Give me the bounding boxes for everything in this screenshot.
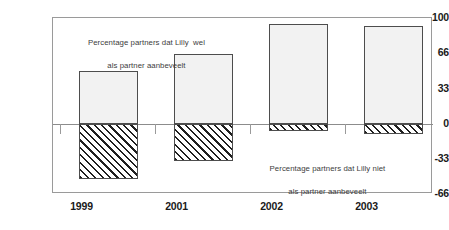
annotation-negative-line1: Percentage partners dat Lilly niet bbox=[270, 164, 386, 173]
bar-negative-2003 bbox=[364, 124, 423, 134]
x-axis-label-2002: 2002 bbox=[242, 201, 301, 212]
x-axis-minor-tick bbox=[345, 124, 346, 134]
x-axis-label-1999: 1999 bbox=[52, 201, 111, 212]
annotation-positive-line1: Percentage partners dat Lilly wel bbox=[88, 38, 205, 47]
x-axis-minor-tick bbox=[155, 124, 156, 134]
annotation-negative-line2: als partner aanbeveelt bbox=[288, 187, 366, 196]
x-axis-label-2003: 2003 bbox=[337, 201, 396, 212]
bar-negative-1999 bbox=[79, 124, 138, 179]
bar-positive-2002 bbox=[269, 24, 328, 124]
bar-positive-2003 bbox=[364, 26, 423, 124]
annotation-positive-line2: als partner aanbeveelt bbox=[107, 61, 185, 70]
bar-negative-2001 bbox=[174, 124, 233, 161]
chart-container: 100 66 33 0 -33 -66 bbox=[0, 0, 449, 230]
x-axis-label-2001: 2001 bbox=[147, 201, 206, 212]
x-axis-minor-tick bbox=[60, 124, 61, 134]
x-axis-minor-tick bbox=[250, 124, 251, 134]
annotation-positive-series: Percentage partners dat Lilly wel als pa… bbox=[62, 26, 222, 82]
bar-negative-2002 bbox=[269, 124, 328, 131]
